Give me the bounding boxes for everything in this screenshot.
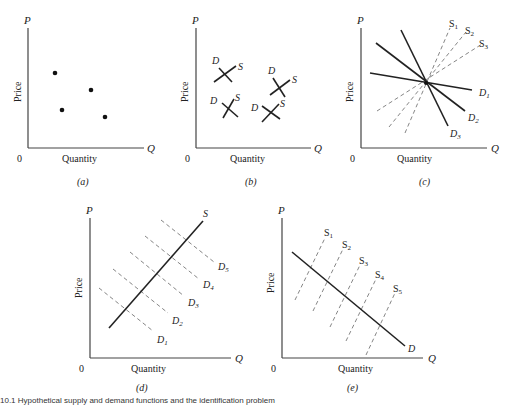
panel-label: (b) — [245, 176, 257, 188]
supply-segment — [262, 104, 279, 122]
q-axis-symbol: Q — [491, 142, 499, 154]
s3-label: S3 — [479, 38, 489, 51]
s-label: S — [235, 92, 240, 103]
origin-label: 0 — [185, 153, 190, 164]
ds-pair: D S — [209, 92, 240, 118]
p-axis-symbol: P — [85, 204, 93, 216]
s1-label: S1 — [449, 18, 459, 31]
panel-label: (a) — [77, 176, 89, 188]
ds-pair: D S — [211, 55, 243, 82]
d1-label: D1 — [156, 334, 168, 347]
p-axis-symbol: P — [356, 14, 364, 26]
supply-curve-s5 — [366, 293, 395, 355]
q-axis-symbol: Q — [235, 352, 243, 364]
s-label: S — [280, 98, 285, 109]
ds-pair: D S — [267, 65, 297, 97]
figure-caption: 10.1 Hypothetical supply and demand func… — [0, 396, 275, 405]
data-point — [103, 115, 108, 120]
d-label: D — [250, 102, 259, 113]
panel-a: P Q 0 Quantity Price (a) — [12, 14, 155, 188]
p-axis-symbol: P — [277, 204, 285, 216]
panel-e: P Q 0 Quantity Price (e) S1 S2 S3 S4 S5 … — [265, 204, 436, 394]
q-axis-symbol: Q — [314, 142, 322, 154]
d5-label: D5 — [217, 261, 229, 274]
s1-label: S1 — [324, 227, 334, 240]
supply-curve-s — [109, 221, 203, 328]
origin-label: 0 — [271, 363, 276, 374]
q-axis-symbol: Q — [428, 352, 436, 364]
d-label: D — [209, 95, 218, 106]
s2-label: S2 — [465, 25, 475, 38]
supply-curve-s1 — [295, 238, 325, 300]
data-point — [60, 108, 65, 113]
panel-b: P Q 0 Quantity Price (b) D S D S D S — [179, 14, 322, 188]
y-axis-label: Price — [344, 81, 355, 102]
supply-segment — [214, 66, 236, 82]
figure-canvas: P Q 0 Quantity Price (a) P Q 0 Quantity … — [0, 0, 510, 405]
panel-d: P Q 0 Quantity Price (d) D1 D2 D3 D4 D5 … — [73, 204, 243, 394]
d-label: D — [211, 55, 220, 66]
panel-c: P Q 0 Quantity Price (c) S1 S2 S3 D1 D2 … — [344, 14, 499, 188]
d2-label: D2 — [171, 315, 183, 328]
s-label: S — [238, 61, 243, 72]
d1-label: D1 — [478, 87, 490, 100]
p-axis-symbol: P — [23, 14, 31, 26]
ds-pair: D S — [250, 98, 285, 122]
x-axis-label: Quantity — [62, 153, 97, 164]
y-axis-label: Price — [73, 277, 84, 298]
s4-label: S4 — [375, 269, 385, 282]
panel-label: (d) — [136, 382, 148, 394]
p-axis-symbol: P — [191, 14, 199, 26]
q-axis-symbol: Q — [147, 142, 155, 154]
s5-label: S5 — [393, 283, 403, 296]
y-axis-label: Price — [179, 81, 190, 102]
data-point — [53, 71, 58, 76]
panel-label: (e) — [347, 382, 359, 394]
x-axis-label: Quantity — [230, 153, 265, 164]
data-point — [89, 88, 94, 93]
panel-label: (c) — [419, 176, 431, 188]
origin-label: 0 — [350, 153, 355, 164]
demand-curve-d3 — [401, 30, 448, 126]
x-axis-label: Quantity — [397, 153, 432, 164]
s3-label: S3 — [359, 255, 369, 268]
y-axis-label: Price — [12, 81, 23, 102]
s-label: S — [292, 74, 297, 85]
d3-label: D3 — [187, 297, 199, 310]
origin-label: 0 — [79, 363, 84, 374]
supply-segment — [223, 99, 234, 118]
common-intersection-point — [424, 81, 428, 85]
demand-curve-d4 — [145, 236, 199, 279]
x-axis-label: Quantity — [338, 363, 373, 374]
demand-curve-d — [292, 252, 405, 346]
supply-curve-s2 — [313, 249, 343, 311]
d-label: D — [267, 65, 276, 76]
d3-label: D3 — [449, 128, 461, 141]
supply-segment — [270, 80, 290, 95]
s-label: S — [203, 208, 208, 219]
s2-label: S2 — [342, 239, 352, 252]
d2-label: D2 — [467, 112, 479, 125]
origin-label: 0 — [17, 153, 22, 164]
demand-curve-d5 — [161, 220, 214, 262]
x-axis-label: Quantity — [131, 363, 166, 374]
d4-label: D4 — [202, 279, 214, 292]
d-label: D — [407, 343, 416, 354]
y-axis-label: Price — [265, 272, 276, 293]
